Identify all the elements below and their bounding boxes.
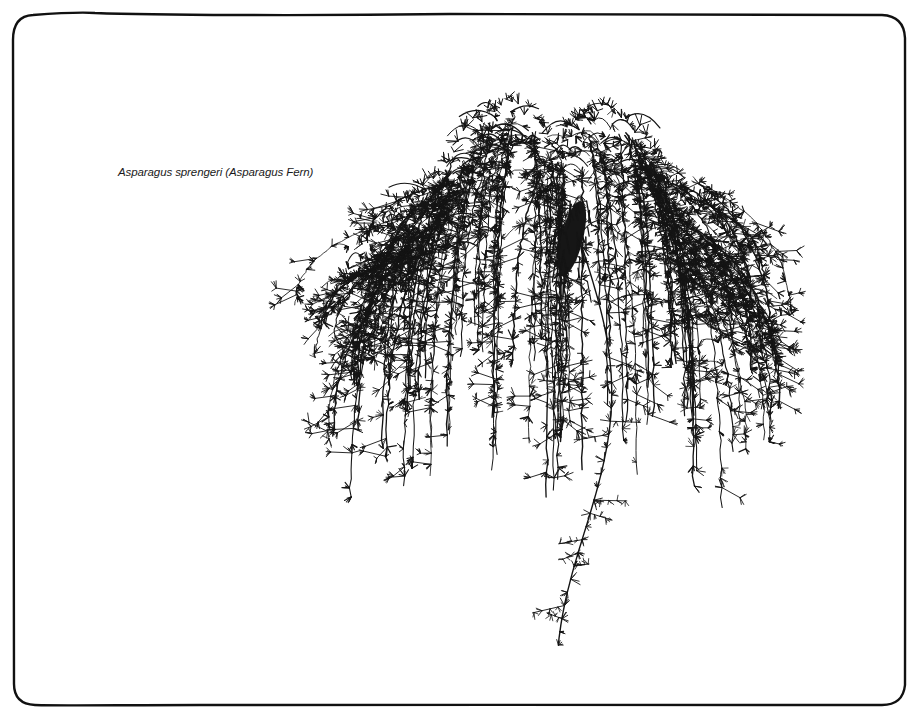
illustration-caption: Asparagus sprengeri (Asparagus Fern)	[118, 166, 313, 178]
fern-foliage	[269, 92, 805, 645]
asparagus-fern-illustration	[0, 0, 918, 719]
